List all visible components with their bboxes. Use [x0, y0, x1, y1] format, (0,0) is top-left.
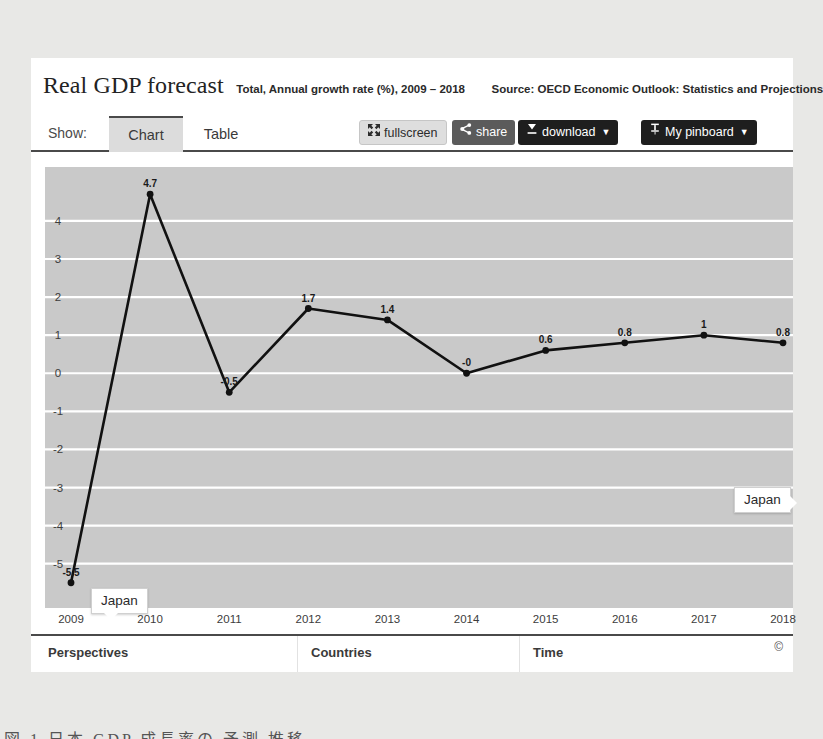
- chevron-down-icon: ▼: [740, 120, 749, 145]
- x-axis-tick: 2014: [454, 613, 480, 625]
- x-axis-tick: 2010: [137, 613, 163, 625]
- footer-divider: [297, 636, 298, 672]
- y-axis-tick: -3: [45, 482, 71, 494]
- x-axis-tick: 2012: [296, 613, 322, 625]
- pin-icon: [649, 119, 661, 144]
- data-point-label: 0.8: [618, 327, 632, 338]
- data-point-label: 0.6: [539, 334, 553, 345]
- share-label: share: [476, 125, 507, 139]
- download-icon: [526, 119, 538, 144]
- x-axis-tick: 2016: [612, 613, 638, 625]
- share-icon: [460, 119, 472, 144]
- plot-canvas: 43210-1-2-3-4-5 -5.54.7-0.51.71.4-00.60.…: [45, 167, 793, 608]
- data-point-label: -0.5: [221, 376, 238, 387]
- chevron-down-icon: ▼: [602, 120, 611, 145]
- data-point-label: -5.5: [62, 567, 79, 578]
- y-axis-tick: 4: [45, 215, 71, 227]
- pinboard-button[interactable]: My pinboard▼: [641, 120, 757, 145]
- fullscreen-label: fullscreen: [384, 126, 438, 140]
- footer-perspectives[interactable]: Perspectives: [48, 645, 128, 660]
- chart-plot-area: 43210-1-2-3-4-5 -5.54.7-0.51.71.4-00.60.…: [31, 154, 793, 608]
- data-point-label: 1: [701, 319, 707, 330]
- footer-time[interactable]: Time: [533, 645, 563, 660]
- y-axis-tick: 1: [45, 329, 71, 341]
- y-axis-tick: 0: [45, 367, 71, 379]
- x-axis-tick: 2011: [217, 613, 242, 625]
- tab-chart[interactable]: Chart: [109, 116, 183, 152]
- x-axis: 2009201020112012201320142015201620172018: [31, 608, 793, 636]
- data-point-label: 4.7: [143, 178, 157, 189]
- x-axis-tick: 2017: [691, 613, 717, 625]
- series-tooltip-right: Japan: [734, 487, 791, 513]
- data-point-label: 1.7: [301, 293, 315, 304]
- y-axis-tick: -1: [45, 405, 71, 417]
- x-axis-tick: 2009: [58, 613, 84, 625]
- page-bottom-caption: 図 1 日本 GDP 成長率の 予測 推移: [0, 726, 823, 739]
- data-point-label: 1.4: [380, 304, 394, 315]
- y-axis-tick: -2: [45, 443, 71, 455]
- pinboard-label: My pinboard: [665, 125, 734, 139]
- tab-table[interactable]: Table: [183, 116, 259, 152]
- share-button[interactable]: share: [452, 120, 515, 145]
- expand-arrows-icon: [368, 120, 380, 145]
- footer-countries[interactable]: Countries: [311, 645, 372, 660]
- data-point-label: 0.8: [776, 327, 790, 338]
- download-button[interactable]: download▼: [518, 120, 618, 145]
- download-label: download: [542, 125, 596, 139]
- y-axis-tick: -4: [45, 520, 71, 532]
- x-axis-tick: 2015: [533, 613, 559, 625]
- data-point-label: -0: [462, 357, 471, 368]
- chart-source: Source: OECD Economic Outlook: Statistic…: [491, 83, 823, 95]
- page-title: Real GDP forecast: [43, 72, 224, 98]
- show-label: Show:: [48, 125, 87, 141]
- chart-header: Real GDP forecast Total, Annual growth r…: [43, 72, 785, 104]
- footer-divider: [519, 636, 520, 672]
- chart-subtitle: Total, Annual growth rate (%), 2009 – 20…: [236, 83, 465, 95]
- chart-card: Real GDP forecast Total, Annual growth r…: [31, 58, 793, 672]
- line-chart-svg: [45, 167, 793, 608]
- chart-footer: Perspectives Countries Time ©: [31, 636, 793, 672]
- copyright-symbol: ©: [774, 640, 783, 654]
- fullscreen-button[interactable]: fullscreen: [359, 120, 447, 145]
- x-axis-tick: 2018: [770, 613, 796, 625]
- x-axis-tick: 2013: [375, 613, 401, 625]
- chart-toolbar: Show: Chart Table fullscreen: [31, 114, 793, 152]
- y-axis-tick: 2: [45, 291, 71, 303]
- y-axis-tick: 3: [45, 253, 71, 265]
